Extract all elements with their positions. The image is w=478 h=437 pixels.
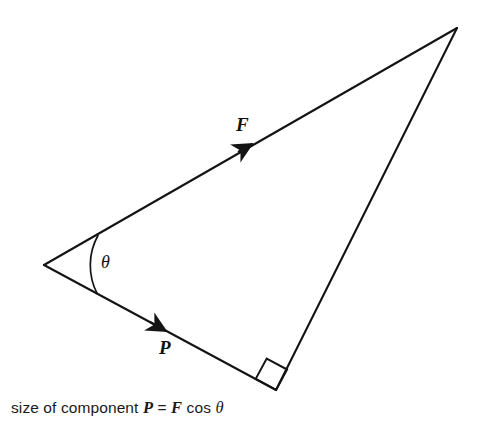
- figure-caption: size of component P = F cos θ: [11, 398, 224, 418]
- component-vector-label: P: [159, 338, 171, 357]
- component-vector-arrowhead: [150, 322, 166, 331]
- caption-theta: θ: [215, 398, 223, 417]
- caption-var-p: P: [143, 398, 153, 417]
- triangle-diagram-canvas: [0, 0, 478, 437]
- force-component-diagram: F P θ size of component P = F cos θ: [0, 0, 478, 437]
- caption-cos: cos: [182, 399, 215, 416]
- force-vector-label: F: [236, 115, 249, 134]
- theta-angle-label: θ: [101, 253, 110, 271]
- caption-var-f: F: [171, 398, 182, 417]
- theta-angle-arc: [90, 235, 98, 294]
- closing-line: [276, 28, 457, 390]
- right-angle-marker: [256, 359, 287, 390]
- force-vector-line: [44, 28, 457, 265]
- caption-prefix: size of component: [11, 399, 143, 416]
- caption-equals: =: [153, 399, 171, 416]
